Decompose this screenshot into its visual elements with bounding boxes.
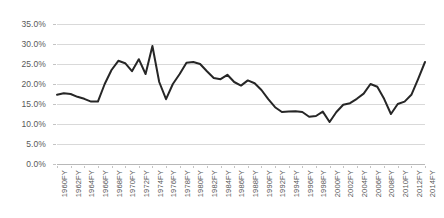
x-tick-mark: [302, 166, 303, 168]
y-tick-mark: [53, 104, 56, 105]
gridline: [57, 124, 425, 125]
y-tick-label: 0.0%: [26, 159, 46, 169]
x-tick-label: 1964FY: [87, 170, 96, 197]
line-chart: 0.0%5.0%10.0%15.0%20.0%25.0%30.0%35.0% 1…: [0, 0, 444, 218]
x-tick-label: 1972FY: [142, 170, 151, 197]
x-tick-label: 1982FY: [210, 170, 219, 197]
x-tick-label: 2014FY: [428, 170, 437, 197]
x-tick-label: 1980FY: [196, 170, 205, 197]
gridline: [57, 164, 425, 165]
plot-area: [57, 24, 425, 164]
x-tick-mark: [343, 166, 344, 168]
gridline: [57, 44, 425, 45]
x-tick-mark: [425, 166, 426, 168]
x-tick-mark: [166, 166, 167, 168]
x-tick-mark: [139, 166, 140, 168]
x-tick-mark: [316, 166, 317, 168]
x-tick-mark: [411, 166, 412, 168]
x-tick-label: 1970FY: [128, 170, 137, 197]
gridline: [57, 24, 425, 25]
x-axis: 1960FY1962FY1964FY1966FY1968FY1970FY1972…: [57, 166, 425, 218]
x-tick-mark: [112, 166, 113, 168]
x-tick-mark: [71, 166, 72, 168]
x-tick-mark: [84, 166, 85, 168]
y-tick-label: 5.0%: [26, 139, 46, 149]
y-tick-mark: [53, 164, 56, 165]
y-tick-mark: [53, 84, 56, 85]
x-tick-label: 1990FY: [265, 170, 274, 197]
y-tick-mark: [53, 124, 56, 125]
x-tick-label: 1974FY: [156, 170, 165, 197]
x-tick-mark: [180, 166, 181, 168]
x-tick-label: 2002FY: [346, 170, 355, 197]
x-tick-mark: [152, 166, 153, 168]
y-tick-label: 25.0%: [21, 59, 46, 69]
x-tick-mark: [248, 166, 249, 168]
gridline: [57, 104, 425, 105]
x-tick-label: 1994FY: [292, 170, 301, 197]
y-tick-label: 15.0%: [21, 99, 46, 109]
y-tick-label: 10.0%: [21, 119, 46, 129]
x-tick-label: 1976FY: [169, 170, 178, 197]
x-tick-label: 1998FY: [319, 170, 328, 197]
gridlines: [57, 24, 425, 164]
gridline: [57, 64, 425, 65]
x-tick-mark: [275, 166, 276, 168]
x-tick-mark: [357, 166, 358, 168]
x-tick-mark: [207, 166, 208, 168]
x-tick-label: 2012FY: [415, 170, 424, 197]
x-tick-label: 1960FY: [60, 170, 69, 197]
x-tick-mark: [125, 166, 126, 168]
x-tick-mark: [234, 166, 235, 168]
x-tick-label: 1986FY: [237, 170, 246, 197]
x-tick-label: 1988FY: [251, 170, 260, 197]
x-tick-mark: [98, 166, 99, 168]
y-tick-mark: [53, 64, 56, 65]
x-tick-mark: [398, 166, 399, 168]
x-tick-label: 1984FY: [224, 170, 233, 197]
x-tick-mark: [384, 166, 385, 168]
x-tick-mark: [289, 166, 290, 168]
y-tick-mark: [53, 24, 56, 25]
x-tick-mark: [193, 166, 194, 168]
x-tick-mark: [370, 166, 371, 168]
x-tick-label: 2006FY: [374, 170, 383, 197]
x-tick-mark: [57, 166, 58, 168]
x-tick-label: 2010FY: [401, 170, 410, 197]
y-tick-mark: [53, 144, 56, 145]
y-tick-label: 20.0%: [21, 79, 46, 89]
y-tick-mark: [53, 44, 56, 45]
x-tick-mark: [330, 166, 331, 168]
x-tick-label: 2000FY: [333, 170, 342, 197]
gridline: [57, 144, 425, 145]
x-tick-label: 1996FY: [306, 170, 315, 197]
gridline: [57, 84, 425, 85]
x-tick-label: 2004FY: [360, 170, 369, 197]
x-tick-label: 1966FY: [101, 170, 110, 197]
y-tick-label: 30.0%: [21, 39, 46, 49]
x-tick-label: 1962FY: [74, 170, 83, 197]
x-tick-label: 1968FY: [115, 170, 124, 197]
x-tick-mark: [261, 166, 262, 168]
x-tick-label: 1978FY: [183, 170, 192, 197]
y-tick-label: 35.0%: [21, 19, 46, 29]
x-tick-label: 1992FY: [278, 170, 287, 197]
x-tick-label: 2008FY: [387, 170, 396, 197]
x-tick-mark: [221, 166, 222, 168]
y-axis: 0.0%5.0%10.0%15.0%20.0%25.0%30.0%35.0%: [0, 0, 52, 164]
